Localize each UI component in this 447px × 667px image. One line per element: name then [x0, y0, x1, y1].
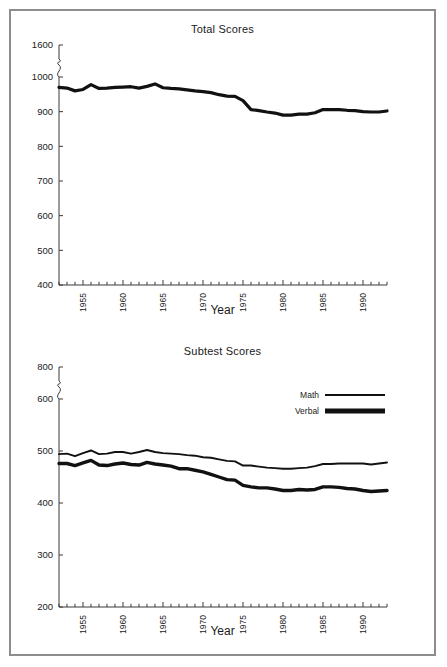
y-tick-label: 600: [37, 210, 53, 221]
y-tick-label: 1600: [32, 39, 53, 50]
x-axis-label-subtest-scores: Year: [11, 624, 434, 638]
series-line-total: [59, 84, 387, 115]
plot-area-total-scores: 4005006007008009001000160019551960196519…: [11, 15, 434, 315]
y-tick-label: 600: [37, 393, 53, 404]
y-tick-label: 900: [37, 106, 53, 117]
y-axis-break-squiggle: [58, 381, 61, 399]
y-tick-label: 400: [37, 497, 53, 508]
y-tick-label: 700: [37, 175, 53, 186]
series-line-verbal: [59, 460, 387, 491]
legend-label-verbal: Verbal: [295, 406, 319, 416]
y-tick-label: 800: [37, 361, 53, 372]
x-axis-label-total-scores: Year: [11, 303, 434, 317]
y-tick-label: 500: [37, 245, 53, 256]
plot-area-subtest-scores: 2003004005006008001955196019651970197519…: [11, 337, 434, 637]
legend-label-math: Math: [300, 390, 319, 400]
y-tick-label: 1000: [32, 71, 53, 82]
y-tick-label: 800: [37, 141, 53, 152]
y-tick-label: 200: [37, 601, 53, 612]
figure-frame: Total Scores 400500600700800900100016001…: [9, 9, 436, 656]
y-tick-label: 500: [37, 445, 53, 456]
chart-panel-subtest-scores: Subtest Scores 2003004005006008001955196…: [11, 337, 434, 654]
y-tick-label: 300: [37, 549, 53, 560]
chart-panel-total-scores: Total Scores 400500600700800900100016001…: [11, 15, 434, 333]
y-axis-break-squiggle: [58, 59, 61, 77]
y-tick-label: 400: [37, 279, 53, 290]
